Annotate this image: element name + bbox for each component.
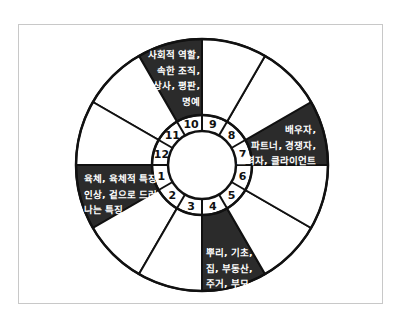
house-7-description-line: 조력자, 클라이언트 [237, 155, 316, 166]
house-1-description-line: 육체, 육체적 특징, [84, 173, 161, 184]
house-7-description-line: 파트너, 경쟁자, [251, 140, 316, 151]
house-1-description-line: 나는 특징 [84, 204, 123, 215]
ring-divider [177, 194, 185, 208]
house-number-12: 12 [154, 148, 169, 161]
house-10-description-line: 사회적 역할, [148, 49, 200, 60]
house-wheel-diagram: 123456789101112 육체, 육체적 특징,인상, 겉으로 드러나는 … [0, 0, 401, 324]
house-number-10: 10 [183, 118, 199, 131]
ring-divider [219, 194, 227, 208]
house-number-9: 9 [209, 118, 217, 131]
house-4-description-line: 뿌리, 기초, [206, 247, 253, 258]
house-10-description-line: 명예 [182, 96, 200, 107]
house-number-5: 5 [228, 189, 236, 202]
center-circle [168, 131, 236, 199]
house-number-4: 4 [209, 200, 217, 213]
house-number-8: 8 [228, 129, 236, 142]
house-10-description-line: 속한 조직, [157, 65, 200, 76]
house-number-6: 6 [239, 170, 247, 183]
ring-divider [219, 122, 227, 136]
house-4-description: 뿌리, 기초,집, 부동산,주거, 부모 [206, 247, 253, 289]
house-7-description-line: 배우자, [285, 124, 316, 135]
house-4-description-line: 집, 부동산, [206, 263, 253, 274]
house-10-description-line: 상사, 평판, [153, 80, 200, 91]
house-number-3: 3 [187, 200, 195, 213]
house-1-description-line: 인상, 겉으로 드러 [84, 189, 157, 200]
house-number-2: 2 [168, 189, 176, 202]
house-4-description-line: 주거, 부모 [206, 278, 249, 289]
